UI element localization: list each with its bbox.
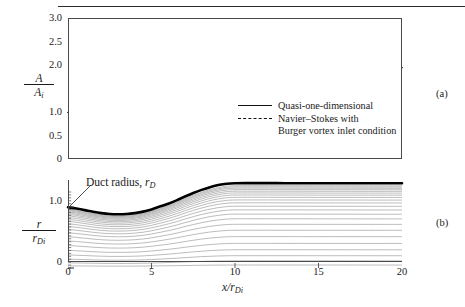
duct-radius-annotation: Duct radius, rD: [86, 176, 156, 190]
panel-a-ytick-0-5: 0.5: [30, 131, 62, 142]
panel-b-xaxis: [68, 261, 402, 262]
panel-b-letter: (b): [436, 217, 448, 228]
panel-a-letter: (a): [436, 88, 448, 99]
legend-label-quasi-1d: Quasi-one-dimensional: [278, 100, 373, 112]
panel-b-ytick-0: 0: [30, 257, 62, 268]
duct-radius-annotation-text: Duct radius,: [86, 176, 145, 188]
panel-a-ytick-3: 3.0: [30, 13, 62, 24]
x-axis-label: x/rDi: [0, 281, 465, 295]
x-tick-label-20: 20: [397, 267, 408, 278]
panel-b-ylabel-denominator: rDi: [22, 230, 56, 247]
panel-a-ytick-2: 2.0: [30, 60, 62, 71]
legend: Quasi-one-dimensional Navier–Stokes with…: [238, 100, 396, 139]
x-tick-label-5: 5: [149, 267, 154, 278]
panel-b-plot: [68, 186, 402, 262]
panel-b-ytick-1: 1.0: [30, 196, 62, 207]
panel-a-ytick-1: 1.0: [30, 107, 62, 118]
legend-entry-navier-stokes: Navier–Stokes with Burger vortex inlet c…: [238, 113, 396, 137]
legend-swatch-solid: [238, 105, 272, 106]
panel-b-ylabel-numerator: r: [22, 218, 56, 230]
duct-radius-symbol-subscript: D: [150, 181, 156, 190]
legend-swatch-dashed: [238, 118, 272, 119]
legend-label-navier-stokes-line1: Navier–Stokes with: [278, 113, 359, 124]
x-tick-label-0: 0: [65, 267, 70, 278]
x-axis-denominator-subscript: Di: [235, 286, 243, 295]
panel-b-canvas: [68, 186, 402, 268]
panel-a-ylabel: A Ai: [24, 72, 54, 101]
top-rule-divider: [58, 6, 465, 7]
panel-a-ylabel-numerator: A: [24, 72, 54, 84]
panel-b-ylabel: r rDi: [22, 218, 56, 247]
legend-label-navier-stokes: Navier–Stokes with Burger vortex inlet c…: [278, 113, 396, 137]
legend-label-navier-stokes-line2: Burger vortex inlet condition: [278, 125, 396, 137]
x-tick-label-10: 10: [230, 267, 241, 278]
x-tick-label-15: 15: [313, 267, 324, 278]
panel-a-ytick-2-5: 2.5: [30, 37, 62, 48]
panel-a-ylabel-denominator: Ai: [24, 84, 54, 101]
figure-container: 3.02.52.01.00.50 A Ai Quasi-one-dimensio…: [0, 0, 465, 307]
panel-a-ytick-0: 0: [30, 154, 62, 165]
legend-entry-quasi-1d: Quasi-one-dimensional: [238, 100, 396, 112]
